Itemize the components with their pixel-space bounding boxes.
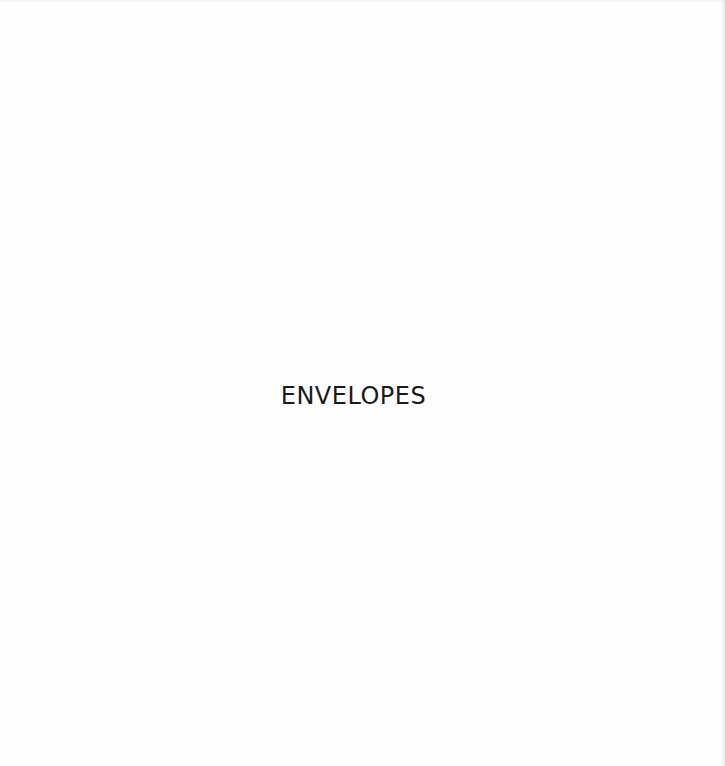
document-page: ENVELOPES: [0, 0, 725, 766]
section-title: ENVELOPES: [0, 380, 707, 412]
scan-top-edge: [0, 0, 725, 3]
scan-right-edge: [721, 0, 725, 766]
